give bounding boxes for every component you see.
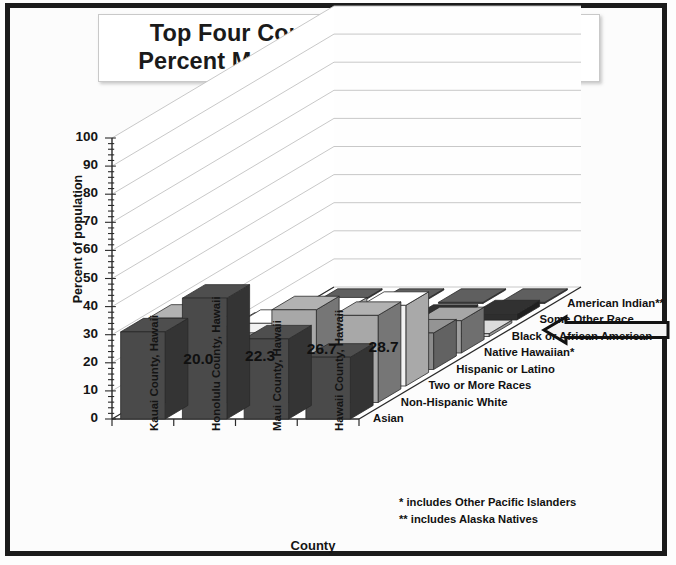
y-axis-tick-label: 20 — [64, 354, 98, 369]
bar-data-label: 28.7 — [369, 338, 399, 355]
x-axis-label: County — [238, 538, 388, 553]
y-axis-tick-label: 50 — [64, 270, 98, 285]
y-axis-tick-label: 90 — [64, 157, 98, 172]
bar-data-label: 20.0 — [183, 350, 213, 367]
series-label-asian: Asian — [373, 412, 404, 424]
y-axis-tick-label: 60 — [64, 241, 98, 256]
series-label-american-indian: American Indian** — [567, 297, 664, 309]
chart-figure: Top Four Counties with the Highest Perce… — [0, 0, 676, 565]
bar-front-face — [438, 302, 482, 303]
y-axis-tick-label: 100 — [64, 129, 98, 144]
x-axis-tick-label: Hawaii County, Hawaii — [333, 310, 345, 431]
y-axis-tick-label: 70 — [64, 213, 98, 228]
series-label-two-or-more-races: Two or More Races — [429, 379, 532, 391]
bar-side-face — [406, 292, 429, 386]
y-axis-tick-label: 80 — [64, 185, 98, 200]
series-label-hispanic-or-latino: Hispanic or Latino — [456, 363, 555, 375]
bar-side-face — [165, 318, 188, 419]
footnotes: * includes Other Pacific Islanders ** in… — [399, 494, 576, 528]
chart-canvas: 28.726.722.320.0 — [0, 0, 676, 565]
series-label-native-hawaiian: Native Hawaiian* — [484, 346, 574, 358]
series-label-some-other-race: Some Other Race — [540, 313, 634, 325]
x-axis-tick-label: Maui County, Hawaii — [271, 320, 283, 431]
plot-area: 28.726.722.320.0 Percent of population 1… — [0, 0, 676, 565]
y-axis-tick-label: 40 — [64, 298, 98, 313]
footnote-2: ** includes Alaska Natives — [399, 511, 576, 528]
y-axis-tick-label: 30 — [64, 326, 98, 341]
x-axis-tick-label: Honolulu County, Hawaii — [210, 296, 222, 431]
bar-side-face — [289, 325, 312, 419]
y-axis-tick-label: 10 — [64, 382, 98, 397]
series-label-black-or-african-american: Black or African American — [512, 330, 652, 342]
series-label-non-hispanic-white: Non-Hispanic White — [401, 396, 508, 408]
footnote-1: * includes Other Pacific Islanders — [399, 494, 576, 511]
y-axis-tick-label: 0 — [64, 410, 98, 425]
x-axis-tick-label: Kauai County, Hawaii — [148, 315, 160, 431]
